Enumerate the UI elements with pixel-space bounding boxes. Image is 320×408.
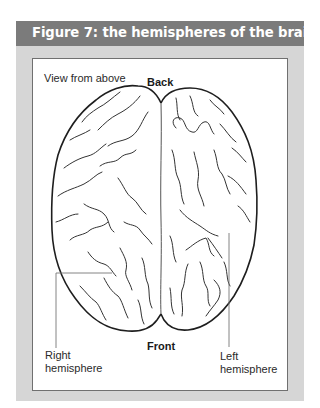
right-hemisphere-leader-line (56, 273, 112, 348)
right-hemisphere-label-line1: Right (45, 349, 102, 362)
left-hemisphere-label-line2: hemisphere (220, 363, 277, 376)
front-label: Front (147, 340, 175, 353)
view-from-above-label: View from above (44, 72, 126, 85)
back-label: Back (147, 76, 173, 89)
left-hemisphere-label-line1: Left (220, 350, 277, 363)
left-hemisphere-sulci (170, 96, 250, 316)
right-hemisphere-label: Right hemisphere (45, 349, 102, 375)
right-hemisphere-label-line2: hemisphere (45, 362, 102, 375)
left-hemisphere-label: Left hemisphere (220, 350, 277, 376)
longitudinal-fissure (161, 103, 162, 314)
